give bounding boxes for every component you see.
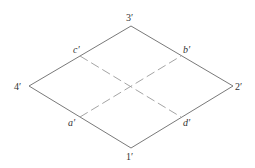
- label-vertex-2: 2′: [235, 81, 242, 92]
- edge-3-2: [131, 26, 233, 86]
- edge-2-1: [131, 86, 233, 148]
- diagram-canvas: 3′ 2′ 1′ 4′ c′ b′ a′ d′: [0, 0, 255, 168]
- label-point-d: d′: [183, 117, 191, 128]
- label-point-c: c′: [73, 44, 80, 55]
- label-vertex-1: 1′: [126, 151, 133, 162]
- label-vertex-3: 3′: [126, 12, 133, 23]
- label-vertex-4: 4′: [14, 81, 21, 92]
- label-point-a: a′: [68, 117, 76, 128]
- label-point-b: b′: [183, 44, 191, 55]
